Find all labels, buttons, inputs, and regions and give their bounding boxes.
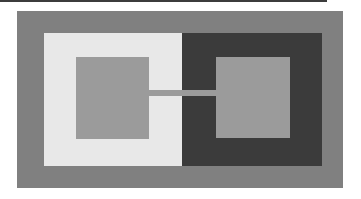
top-rule-line: [0, 0, 327, 2]
left-inner-square: [76, 57, 149, 139]
connector-bar: [147, 90, 218, 96]
outer-gray-frame: [17, 11, 343, 188]
right-inner-square: [216, 57, 290, 138]
artwork-canvas: [0, 0, 361, 199]
